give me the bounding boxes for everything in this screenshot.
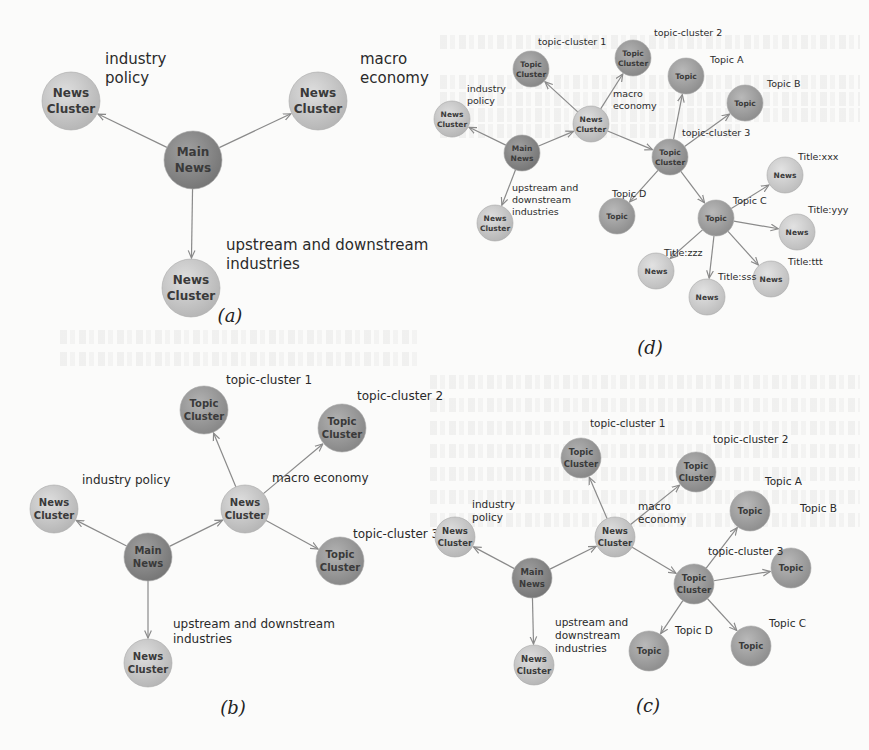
panel-a: MainNewsNewsClusterNewsClusterNewsCluste…: [42, 50, 429, 326]
node-news-cluster: NewsCluster: [162, 259, 220, 317]
node-label: News: [300, 86, 336, 100]
edge-main-to-nc_policy: [76, 520, 126, 546]
node-news: News: [638, 253, 674, 289]
node-main-news: MainNews: [164, 131, 222, 189]
node-label: News: [175, 161, 211, 175]
node-topic-cluster: TopicCluster: [513, 51, 549, 87]
node-label: Cluster: [128, 664, 168, 675]
node-label: Topic: [606, 212, 628, 221]
node-label: Cluster: [47, 102, 95, 116]
annotation-updown: industries: [173, 632, 232, 646]
annotation-policy: industry policy: [82, 473, 170, 487]
node-label: Cluster: [679, 473, 714, 483]
edge-main-to-nc_policy: [474, 547, 515, 569]
node-label: News: [39, 497, 69, 508]
annotation-tA: Topic A: [709, 54, 744, 65]
annotation-updown: upstream and: [512, 182, 578, 193]
annotation-policy: industry: [467, 83, 506, 94]
annotation-tc1: topic-cluster 1: [590, 417, 665, 429]
node-label: News: [760, 275, 783, 284]
node-label: Main: [177, 145, 210, 159]
annotation-updown: upstream and downstream: [226, 236, 428, 254]
node-label: News: [521, 654, 547, 664]
node-label: Topic: [675, 72, 697, 81]
node-label: News: [519, 579, 545, 589]
node-news-cluster: NewsCluster: [221, 485, 269, 533]
annotation-macro: macro: [613, 88, 643, 99]
node-topic-cluster: TopicCluster: [615, 40, 651, 76]
annotation-tc1: topic-cluster 1: [226, 373, 312, 387]
annotation-ttt: Title:ttt: [787, 256, 823, 267]
annotation-tc2: topic-cluster 2: [654, 27, 722, 38]
annotation-tC: Topic C: [732, 195, 767, 206]
edge-tc3-to-tA: [673, 95, 682, 140]
annotation-updown: industries: [555, 642, 607, 654]
node-label: Topic: [637, 646, 662, 656]
node-topic-cluster: TopicCluster: [316, 537, 364, 585]
edge-main-to-nc_macro: [539, 131, 574, 146]
node-label: Cluster: [225, 510, 265, 521]
node-label: Cluster: [184, 411, 224, 422]
node-label: Topic: [682, 573, 707, 583]
panel-caption: (a): [218, 305, 243, 326]
annotation-updown: upstream and: [555, 616, 628, 628]
node-label: Cluster: [34, 510, 74, 521]
node-label: News: [511, 154, 534, 163]
node-news-cluster: NewsCluster: [477, 205, 513, 241]
node-label: News: [230, 497, 260, 508]
node-topic: Topic: [599, 198, 635, 234]
annotation-tD: Topic D: [674, 624, 713, 636]
annotation-zzz: Title:zzz: [663, 247, 703, 258]
node-label: Topic: [734, 99, 756, 108]
node-label: Cluster: [167, 289, 215, 303]
edge-tc3-to-tB: [714, 571, 771, 580]
panel-d: MainNewsNewsClusterNewsClusterNewsCluste…: [434, 27, 849, 358]
node-news-cluster: NewsCluster: [573, 106, 609, 142]
annotation-tc2: topic-cluster 2: [357, 389, 443, 403]
node-label: Topic: [569, 447, 594, 457]
node-news: News: [767, 157, 803, 193]
node-label: Cluster: [294, 102, 342, 116]
annotation-updown: upstream and downstream: [173, 617, 335, 631]
annotation-updown: industries: [512, 206, 559, 217]
edge-nc_macro-to-tc3: [266, 521, 318, 549]
node-circle: [316, 537, 364, 585]
node-topic: Topic: [730, 491, 770, 531]
node-topic-cluster: TopicCluster: [676, 452, 716, 492]
annotation-macro: macro: [638, 500, 671, 512]
edge-main-to-nc_macro: [550, 546, 596, 569]
node-label: Cluster: [437, 120, 468, 129]
panel-caption: (d): [637, 337, 663, 358]
node-news-cluster: NewsCluster: [289, 72, 347, 130]
edge-main-to-nc_updown: [532, 598, 533, 644]
node-circle: [124, 639, 172, 687]
node-topic-cluster: TopicCluster: [180, 386, 228, 434]
node-topic: Topic: [698, 200, 734, 236]
node-circle: [162, 259, 220, 317]
node-label: Main: [134, 545, 161, 556]
node-topic: Topic: [727, 85, 763, 121]
figure: MainNewsNewsClusterNewsClusterNewsCluste…: [0, 0, 869, 750]
edge-tc3-to-tC: [681, 171, 705, 202]
annotation-policy: industry: [105, 50, 167, 68]
node-topic: Topic: [731, 626, 771, 666]
node-label: News: [441, 110, 464, 119]
edge-main-to-nc_policy: [98, 114, 167, 147]
node-circle: [124, 533, 172, 581]
edge-nc_macro-to-tc1: [214, 433, 236, 487]
node-circle: [221, 485, 269, 533]
annotation-updown: industries: [226, 255, 300, 273]
node-topic: Topic: [668, 58, 704, 94]
node-main-news: MainNews: [124, 533, 172, 581]
panel-b: MainNewsNewsClusterNewsClusterNewsCluste…: [30, 373, 443, 718]
node-label: Cluster: [677, 585, 712, 595]
edge-main-to-nc_updown: [191, 189, 192, 258]
annotation-updown: downstream: [555, 629, 620, 641]
node-main-news: MainNews: [512, 558, 552, 598]
node-label: Cluster: [598, 538, 633, 548]
node-news-cluster: NewsCluster: [42, 72, 100, 130]
node-news-cluster: NewsCluster: [30, 485, 78, 533]
annotation-macro: economy: [613, 100, 657, 111]
node-label: Topic: [622, 49, 644, 58]
node-label: Cluster: [517, 666, 552, 676]
